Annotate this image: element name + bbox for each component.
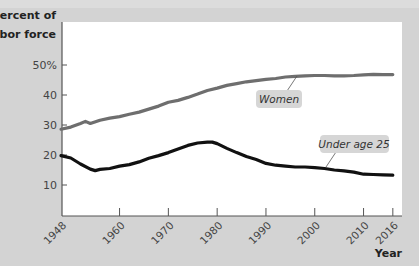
y-axis-title-line1: Percent of xyxy=(0,9,56,22)
women-label: Women xyxy=(259,93,299,105)
y-tick-label: 10 xyxy=(43,179,57,192)
x-tick-label: 1990 xyxy=(246,219,273,246)
x-tick-label: 1980 xyxy=(197,219,224,246)
x-tick-label: 1970 xyxy=(148,219,175,246)
y-tick-label: 20 xyxy=(43,149,57,162)
x-tick-label: 2010 xyxy=(344,219,371,246)
line-chart: 1020304050% 1948196019701980199020002010… xyxy=(0,0,419,271)
x-axis-title: Year xyxy=(374,247,403,260)
x-tick-label: 1948 xyxy=(41,219,68,246)
y-tick-label: 30 xyxy=(43,119,57,132)
x-tick-label: 2016 xyxy=(373,219,401,247)
y-tick-label: 40 xyxy=(43,89,57,102)
y-tick-label: 50% xyxy=(33,59,57,72)
y-axis-title-line2: labor force xyxy=(0,28,56,41)
x-tick-label: 1960 xyxy=(100,219,127,246)
under25-label: Under age 25 xyxy=(318,138,390,150)
x-tick-label: 2000 xyxy=(295,219,322,246)
